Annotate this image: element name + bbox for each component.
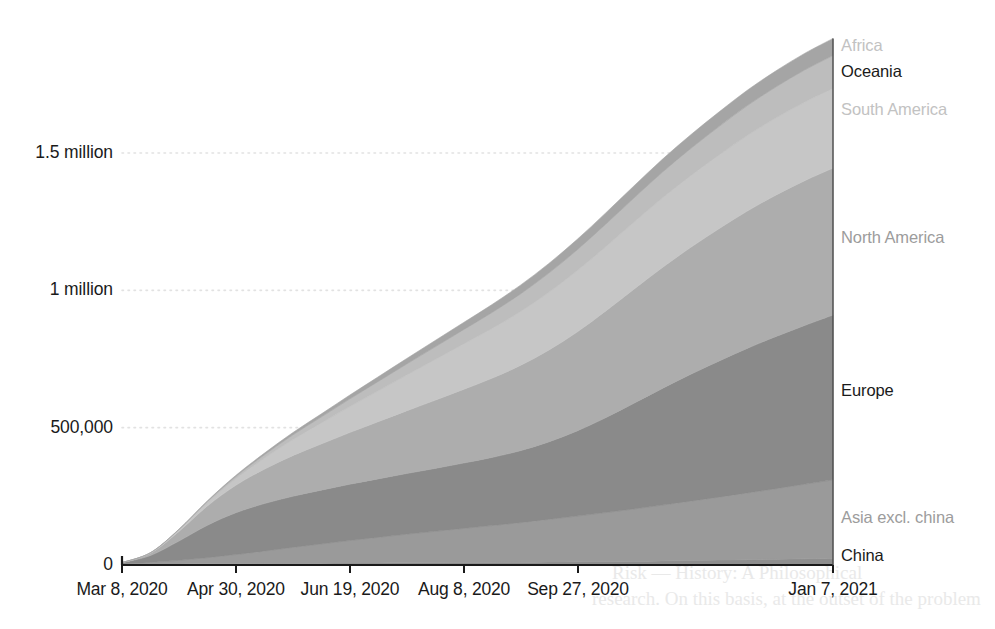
stacked-area-chart: Risk — History: A Philosophical research… (0, 0, 995, 629)
x-tick-label-0: Mar 8, 2020 (76, 579, 167, 600)
series-label-asia-excl-china: Asia excl. china (841, 508, 954, 527)
area-series-group (122, 38, 833, 565)
y-tick-label-0: 0 (103, 554, 113, 575)
series-label-africa: Africa (841, 36, 883, 55)
series-label-china: China (841, 546, 884, 565)
series-label-south-america: South America (841, 100, 947, 119)
y-tick-label-1: 500,000 (50, 417, 113, 438)
series-label-north-america: North America (841, 228, 944, 247)
series-label-oceania: Oceania (841, 62, 902, 81)
series-label-europe: Europe (841, 381, 894, 400)
y-tick-label-3: 1.5 million (35, 142, 113, 163)
y-tick-label-2: 1 million (50, 279, 113, 300)
chart-canvas (0, 0, 995, 629)
x-tick-label-1: Apr 30, 2020 (187, 579, 285, 600)
x-tick-label-5: Jan 7, 2021 (788, 579, 877, 600)
tick-marks-group (122, 565, 833, 573)
x-tick-label-4: Sep 27, 2020 (527, 579, 629, 600)
x-tick-label-2: Jun 19, 2020 (301, 579, 400, 600)
x-tick-label-3: Aug 8, 2020 (418, 579, 510, 600)
